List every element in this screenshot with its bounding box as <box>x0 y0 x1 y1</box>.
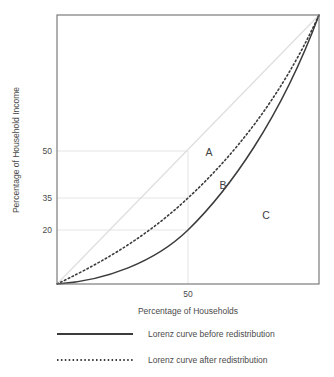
ytick-label-35: 35 <box>43 193 53 203</box>
ytick-label-20: 20 <box>43 225 53 235</box>
x-axis-title: Percentage of Households <box>138 306 238 316</box>
chart-legend: Lorenz curve before redistribution Loren… <box>57 329 275 365</box>
y-axis-title: Percentage of Household Income <box>11 87 21 213</box>
region-label-c: C <box>262 209 270 221</box>
lorenz-curve-chart: A B C 50 35 20 50 Percentage of Househol… <box>0 0 334 377</box>
region-label-a: A <box>205 146 212 158</box>
legend-label-before: Lorenz curve before redistribution <box>148 329 275 339</box>
chart-svg: A B C 50 35 20 50 Percentage of Househol… <box>0 0 334 377</box>
xtick-label-50: 50 <box>183 289 193 299</box>
region-label-b: B <box>219 179 226 191</box>
ytick-label-50: 50 <box>43 146 53 156</box>
legend-label-after: Lorenz curve after redistribution <box>148 355 268 365</box>
